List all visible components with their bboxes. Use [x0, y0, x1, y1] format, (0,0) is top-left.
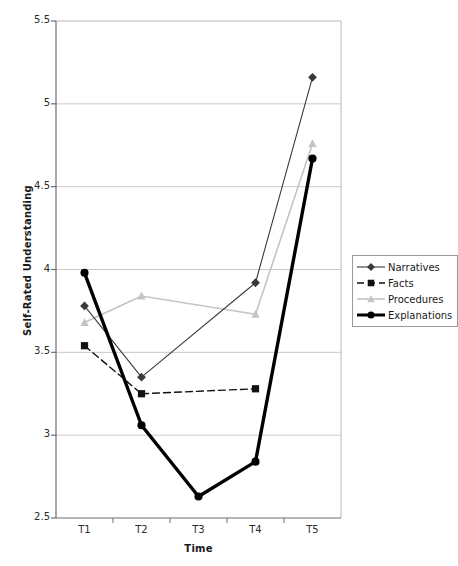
legend-key-circle-icon	[356, 307, 386, 323]
x-tick-label: T5	[284, 524, 342, 535]
series-segment	[256, 159, 313, 462]
x-axis-title: Time	[56, 543, 341, 554]
x-tick-label: T4	[227, 524, 285, 535]
data-point-triangle	[80, 318, 88, 326]
series-segment	[142, 296, 256, 314]
legend-item-explanations[interactable]: Explanations	[356, 307, 452, 323]
data-point-circle	[308, 154, 316, 162]
data-point-circle	[367, 311, 374, 318]
legend-key-square-icon	[356, 275, 386, 291]
data-point-square	[252, 385, 259, 392]
legend-item-facts[interactable]: Facts	[356, 275, 452, 291]
series-segment	[199, 462, 256, 497]
chart-legend: NarrativesFactsProceduresExplanations	[352, 255, 458, 327]
x-tick-label: T2	[113, 524, 171, 535]
x-tick-label: T1	[56, 524, 114, 535]
data-point-square	[368, 280, 375, 287]
series-segment	[142, 425, 199, 496]
data-point-circle	[251, 458, 259, 466]
data-point-circle	[137, 421, 145, 429]
gridlines	[51, 21, 341, 518]
series-segment	[256, 77, 313, 282]
legend-key-triangle-icon	[356, 291, 386, 307]
series-segment	[85, 306, 142, 377]
legend-label: Procedures	[386, 294, 443, 305]
data-point-triangle	[137, 292, 145, 300]
x-tick-label: T3	[170, 524, 228, 535]
data-point-triangle	[308, 139, 316, 147]
series-segment	[85, 273, 142, 425]
data-point-circle	[80, 269, 88, 277]
legend-item-narratives[interactable]: Narratives	[356, 259, 452, 275]
series-segment	[142, 389, 256, 394]
legend-label: Explanations	[386, 310, 452, 321]
x-axis-ticks	[113, 518, 284, 523]
data-point-square	[81, 342, 88, 349]
series-markers	[80, 73, 317, 501]
legend-label: Narratives	[386, 262, 440, 273]
data-point-circle	[194, 492, 202, 500]
data-point-diamond	[367, 263, 375, 271]
legend-key-diamond-icon	[356, 259, 386, 275]
series-segment	[142, 283, 256, 377]
legend-item-procedures[interactable]: Procedures	[356, 291, 452, 307]
series-segment	[256, 144, 313, 315]
data-point-diamond	[308, 73, 317, 82]
data-point-square	[138, 390, 145, 397]
legend-label: Facts	[386, 278, 414, 289]
series-lines	[85, 77, 313, 496]
